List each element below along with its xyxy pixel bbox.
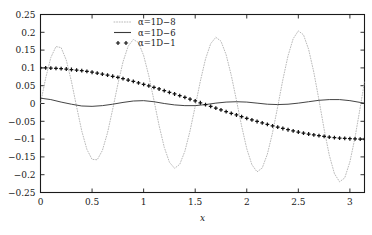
- y-tick-label: −0.05: [8, 117, 36, 127]
- x-tick-label: 2.5: [291, 197, 306, 207]
- y-tick-label: 0: [30, 99, 36, 109]
- y-tick-label: 0.2: [21, 28, 35, 38]
- x-tick-label: 1: [141, 197, 147, 207]
- legend-marker-plus: [116, 41, 120, 45]
- y-tick-label: −0.15: [8, 152, 36, 162]
- x-tick-label: 3: [347, 197, 353, 207]
- y-tick-label: −0.25: [8, 188, 36, 198]
- legend-label-2: α=1D−1: [138, 38, 176, 48]
- y-tick-label: 0.25: [15, 10, 35, 20]
- series-1-line: [41, 98, 365, 106]
- plot-frame: [41, 15, 365, 193]
- y-tick-label: 0.1: [21, 63, 35, 73]
- legend-marker-plus: [124, 41, 128, 45]
- legend-label-1: α=1D−6: [138, 28, 176, 38]
- y-tick-label: 0.15: [15, 45, 35, 55]
- y-tick-label: 0.05: [15, 81, 35, 91]
- series-2-markers: [39, 66, 367, 141]
- y-tick-label: −0.2: [14, 170, 36, 180]
- x-tick-label: 2: [244, 197, 250, 207]
- x-axis-label: x: [200, 213, 205, 223]
- plot-canvas: 00.511.522.53−0.25−0.2−0.15−0.1−0.0500.0…: [0, 0, 372, 235]
- chart-figure: 00.511.522.53−0.25−0.2−0.15−0.1−0.0500.0…: [0, 0, 372, 235]
- legend-label-0: α=1D−8: [138, 17, 176, 27]
- x-tick-label: 1.5: [188, 197, 203, 207]
- x-tick-label: 0.5: [85, 197, 100, 207]
- y-tick-label: −0.1: [14, 134, 36, 144]
- x-tick-label: 0: [38, 197, 44, 207]
